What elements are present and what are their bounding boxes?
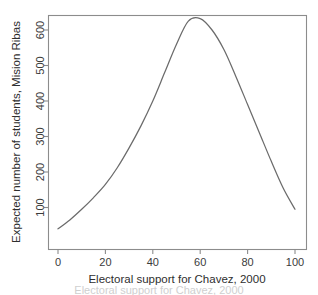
- x-axis-title: Electoral support for Chavez, 2000: [88, 273, 265, 285]
- y-axis-title: Expected number of students, Mision Riba…: [10, 21, 22, 243]
- x-axis-ticks: [58, 250, 295, 255]
- x-tick-label: 40: [147, 256, 159, 268]
- x-axis-tick-labels: 0 20 40 60 80 100: [55, 256, 304, 268]
- x-tick-label: 80: [241, 256, 253, 268]
- y-tick-label: 600: [34, 21, 46, 39]
- line-chart-plot: 600 500 400 300 200 100 Expected number …: [0, 0, 318, 295]
- y-tick-label: 500: [34, 56, 46, 74]
- y-tick-label: 300: [34, 127, 46, 145]
- x-tick-label: 20: [99, 256, 111, 268]
- chart-figure: 600 500 400 300 200 100 Expected number …: [0, 0, 318, 295]
- clipped-caption-strip: Electoral support for Chavez, 2000: [0, 285, 318, 295]
- x-tick-label: 60: [194, 256, 206, 268]
- y-tick-label: 100: [34, 198, 46, 216]
- x-tick-label: 100: [286, 256, 304, 268]
- y-axis-tick-labels: 600 500 400 300 200 100: [34, 21, 46, 217]
- plot-frame: [49, 16, 307, 250]
- y-tick-label: 400: [34, 92, 46, 110]
- y-tick-label: 200: [34, 163, 46, 181]
- expected-students-curve: [58, 18, 295, 229]
- clipped-caption-text: Electoral support for Chavez, 2000: [0, 285, 318, 295]
- x-tick-label: 0: [55, 256, 61, 268]
